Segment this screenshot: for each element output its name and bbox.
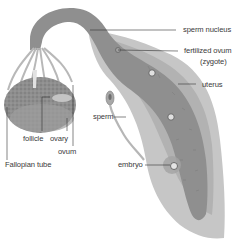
label-fallopian-tube: Fallopian tube bbox=[5, 161, 51, 169]
label-uterus: uterus bbox=[202, 81, 223, 89]
label-fertilized-ovum: fertilized ovum bbox=[184, 47, 231, 55]
label-sperm-nucleus: sperm nucleus bbox=[183, 26, 231, 34]
label-follicle: follicle bbox=[23, 135, 43, 143]
follicle bbox=[52, 94, 72, 102]
cleavage-cell-1 bbox=[149, 70, 155, 76]
label-zygote: (zygote) bbox=[200, 58, 227, 66]
label-embryo: embryo bbox=[118, 161, 143, 169]
label-ovary: ovary bbox=[50, 135, 68, 143]
cleavage-cell-2 bbox=[168, 114, 174, 120]
label-sperm: sperm bbox=[93, 113, 114, 121]
label-ovum: ovum bbox=[58, 148, 76, 156]
reproductive-diagram bbox=[0, 0, 233, 245]
